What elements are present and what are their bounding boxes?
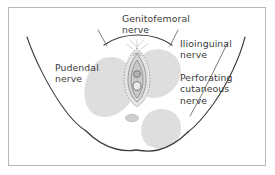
genitofemoral-nerve-label: Genitofemoral nerve xyxy=(122,13,190,36)
anus-oval xyxy=(126,114,139,121)
pubic-hatching xyxy=(126,39,148,49)
left-buttock-outline xyxy=(86,131,136,151)
vaginal-opening xyxy=(133,82,141,91)
genitofemoral-leader-left xyxy=(98,30,107,46)
anatomy-figure: Genitofemoral nerve Ilioinguinal nerve P… xyxy=(0,0,275,175)
vulva-perineum-structure xyxy=(124,39,150,107)
pudendal-nerve-label: Pudendal nerve xyxy=(55,62,99,85)
perforating-cutaneous-nerve-label: Perforating cutaneous nerve xyxy=(180,72,232,106)
urethral-opening xyxy=(134,71,141,78)
mons-pubis-outline xyxy=(104,35,172,45)
ilioinguinal-nerve-label: Ilioinguinal nerve xyxy=(180,38,232,61)
